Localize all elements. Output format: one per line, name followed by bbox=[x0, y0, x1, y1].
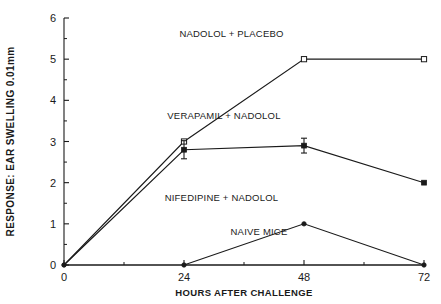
y-tick-label: 3 bbox=[50, 136, 56, 148]
x-tick-label: 48 bbox=[298, 271, 310, 283]
data-point-marker bbox=[421, 57, 426, 62]
data-point-marker bbox=[302, 222, 306, 226]
series-annotation: NAIVE MICE bbox=[231, 226, 288, 237]
x-tick-label: 72 bbox=[418, 271, 430, 283]
y-tick-label: 2 bbox=[50, 177, 56, 189]
y-tick-label: 1 bbox=[50, 218, 56, 230]
y-tick-label: 5 bbox=[50, 53, 56, 65]
series-annotation: NADOLOL + PLACEBO bbox=[179, 28, 283, 39]
ear-swelling-line-chart: 01234560244872NADOLOL + PLACEBOVERAPAMIL… bbox=[0, 0, 441, 304]
chart-figure: 01234560244872NADOLOL + PLACEBOVERAPAMIL… bbox=[0, 0, 441, 304]
series-line-verapamil-nadolol bbox=[64, 146, 424, 265]
data-point-marker bbox=[301, 57, 306, 62]
x-tick-label: 24 bbox=[178, 271, 190, 283]
series-line-nifedipine-nadolol bbox=[184, 224, 424, 265]
y-tick-label: 4 bbox=[50, 94, 56, 106]
y-tick-label: 0 bbox=[50, 259, 56, 271]
x-axis-title: HOURS AFTER CHALLENGE bbox=[175, 287, 312, 298]
y-axis-title: RESPONSE: EAR SWELLING 0.01mm bbox=[5, 47, 16, 237]
data-point-marker bbox=[422, 180, 427, 185]
y-tick-label: 6 bbox=[50, 12, 56, 24]
series-annotation: VERAPAMIL + NADOLOL bbox=[167, 110, 280, 121]
data-point-marker bbox=[182, 147, 187, 152]
series-annotation: NIFEDIPINE + NADOLOL bbox=[165, 192, 279, 203]
x-tick-label: 0 bbox=[61, 271, 67, 283]
data-point-marker bbox=[302, 143, 307, 148]
